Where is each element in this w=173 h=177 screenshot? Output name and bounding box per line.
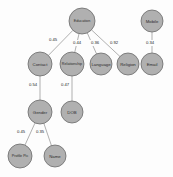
graph-node-dob[interactable]: DOB: [61, 101, 83, 123]
edge-weight-label: 0.45: [16, 129, 26, 135]
edge-weight-text: 0.34: [146, 40, 155, 45]
edge-weight-label: 0.34: [145, 40, 155, 46]
graph-edge: [44, 123, 52, 145]
node-label: Education: [74, 19, 90, 23]
graph-node-contact[interactable]: Contact: [28, 52, 52, 76]
edge-weight-text: 0.45: [49, 37, 58, 42]
edge-weight-label: 0.36: [90, 40, 100, 46]
graph-node-email[interactable]: Email: [141, 53, 163, 75]
graph-edge: [25, 123, 35, 145]
edge-weight-label: 0.47: [60, 82, 70, 88]
node-label: Name: [49, 154, 61, 159]
diagram-canvas: EducationContactRelationshipLanguageReli…: [0, 0, 173, 177]
graph-node-language[interactable]: Language: [90, 53, 112, 75]
node-label: Contact: [33, 62, 49, 67]
node-label: Relationship: [62, 62, 82, 66]
node-label: Profile Pic: [12, 154, 29, 158]
edge-weight-label: 0.45: [48, 37, 58, 43]
graph-node-education[interactable]: Education: [69, 8, 95, 34]
node-label: Mobile: [146, 19, 159, 24]
edge-weight-text: 0.45: [17, 129, 26, 134]
edge-weight-text: 0.47: [61, 82, 70, 87]
edge-weight-text: 0.36: [91, 40, 100, 45]
graph-svg: EducationContactRelationshipLanguageReli…: [0, 0, 173, 177]
node-label: Religion: [120, 62, 136, 67]
edge-weight-text: 0.35: [36, 129, 45, 134]
edge-weight-label: 0.44: [72, 40, 82, 46]
graph-node-relationship[interactable]: Relationship: [60, 52, 84, 76]
edge-weight-label: 0.54: [28, 82, 38, 88]
graph-node-profilepic[interactable]: Profile Pic: [8, 144, 32, 168]
graph-node-religion[interactable]: Religion: [117, 53, 139, 75]
graph-node-gender[interactable]: Gender: [28, 100, 52, 124]
edge-weight-label: 0.92: [109, 40, 119, 46]
edge-weight-text: 0.44: [73, 40, 82, 45]
edge-weight-text: 0.92: [110, 40, 119, 45]
graph-node-name[interactable]: Name: [44, 145, 66, 167]
node-label: Email: [147, 62, 158, 67]
node-label: DOB: [67, 110, 76, 115]
edge-weight-text: 0.54: [29, 82, 38, 87]
node-label: Language: [91, 62, 111, 67]
edge-weight-label: 0.35: [35, 129, 45, 135]
node-label: Gender: [33, 110, 48, 115]
graph-node-mobile[interactable]: Mobile: [141, 10, 163, 32]
